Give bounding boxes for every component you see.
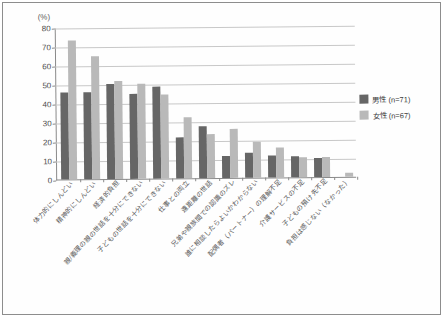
y-tick-mark	[52, 86, 55, 87]
bar-group	[310, 26, 335, 177]
bar-group	[79, 28, 104, 179]
legend: 男性 (n=71) 女性 (n=67)	[359, 93, 439, 126]
bar-female	[114, 81, 123, 179]
y-tick-label: 30	[43, 119, 52, 128]
y-tick-mark	[53, 162, 56, 163]
legend-item-female: 女性 (n=67)	[360, 109, 440, 121]
legend-swatch-female-icon	[360, 111, 369, 120]
bar-male	[222, 156, 230, 178]
bar-female	[276, 147, 284, 177]
bar-group	[263, 26, 288, 177]
chart-canvas: (%) 01020304050607080 体力的にしんどい精神的にしんどい経済…	[2, 1, 444, 318]
y-tick-label: 20	[43, 138, 52, 147]
y-tick-mark	[52, 48, 55, 49]
bar-female	[322, 157, 330, 177]
x-axis-category-labels: 体力的にしんどい精神的にしんどい経済的負担親/義理の親の世話を十分にできない子ど…	[56, 177, 445, 317]
bar-female	[230, 128, 238, 177]
y-tick-label: 70	[42, 43, 51, 52]
y-tick-mark	[52, 105, 55, 106]
legend-label-male: 男性 (n=71)	[372, 93, 410, 104]
y-tick-label: 80	[42, 24, 51, 33]
bar-female	[67, 41, 76, 180]
y-tick-label: 50	[42, 81, 51, 90]
bar-group	[217, 27, 242, 178]
bar-group	[102, 28, 127, 179]
bar-female	[207, 134, 215, 178]
bar-group	[56, 28, 81, 179]
bar-male	[268, 156, 276, 178]
y-tick-mark	[52, 29, 55, 30]
y-tick-label: 10	[43, 157, 52, 166]
y-tick-label: 60	[42, 62, 51, 71]
figure-frame: (%) 01020304050607080 体力的にしんどい精神的にしんどい経済…	[2, 2, 441, 315]
y-tick-label: 0	[48, 176, 53, 185]
y-tick-mark	[53, 143, 56, 144]
bar-group	[171, 27, 196, 178]
bar-group	[148, 27, 173, 178]
bar-male	[314, 158, 322, 177]
bar-group	[286, 26, 311, 177]
bar-male	[291, 156, 299, 177]
bar-female	[160, 95, 169, 179]
bar-group	[194, 27, 219, 178]
y-tick-mark	[53, 124, 56, 125]
bar-group	[240, 27, 265, 178]
bar-group	[333, 26, 358, 177]
bar-female	[137, 84, 146, 179]
y-tick-label: 40	[43, 100, 52, 109]
y-axis-unit-label: (%)	[38, 13, 51, 22]
legend-label-female: 女性 (n=67)	[373, 109, 411, 120]
y-tick-mark	[52, 67, 55, 68]
bar-female	[299, 157, 307, 177]
bar-female	[91, 56, 100, 180]
legend-swatch-male-icon	[359, 95, 368, 104]
bar-female	[184, 117, 193, 178]
bar-female	[253, 142, 261, 178]
bars-layer	[56, 26, 356, 180]
plot-area: 01020304050607080	[55, 26, 356, 181]
legend-item-male: 男性 (n=71)	[359, 93, 439, 105]
bar-male	[245, 153, 253, 178]
bar-group	[125, 28, 150, 179]
